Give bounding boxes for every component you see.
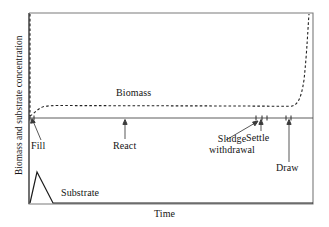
settle-arrow xyxy=(259,120,263,132)
chart-canvas xyxy=(0,0,329,227)
phase-label-settle: Settle xyxy=(246,133,269,144)
react-arrow xyxy=(123,120,127,140)
substrate-series-label: Substrate xyxy=(61,188,99,199)
sbr-cycle-figure: Biomass and substrate concentration Time… xyxy=(0,0,329,227)
biomass-series-label: Biomass xyxy=(116,88,151,99)
phase-label-draw: Draw xyxy=(276,163,299,174)
biomass-curve xyxy=(30,14,309,116)
y-axis-label: Biomass and substrate concentration xyxy=(14,9,25,201)
cycle-phase-line xyxy=(29,116,313,121)
phase-label-react: React xyxy=(113,141,136,152)
x-axis-label: Time xyxy=(0,209,329,220)
fill-arrow xyxy=(31,119,41,141)
phase-label-fill: Fill xyxy=(31,141,45,152)
draw-arrow xyxy=(287,120,291,163)
plot-frame xyxy=(29,13,313,204)
